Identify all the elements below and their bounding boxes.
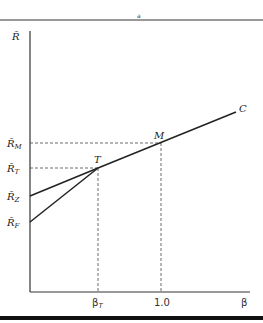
- point-t-label: T: [94, 154, 102, 165]
- rf-label: R̄F: [6, 217, 21, 230]
- beta-1-tick: 1.0: [154, 297, 170, 308]
- tmc-line: [98, 112, 236, 168]
- rz-label: R̄Z: [6, 191, 20, 204]
- rt-label: R̄T: [6, 163, 21, 176]
- page-mark: a: [137, 12, 141, 19]
- y-axis-label: R̄: [11, 31, 20, 42]
- rz-line: [30, 168, 98, 196]
- bottom-rule: [0, 316, 263, 320]
- point-c-label: C: [239, 103, 247, 114]
- rm-label: R̄M: [6, 138, 23, 151]
- beta-t-tick: βT: [92, 297, 103, 310]
- diagram-canvas: a R̄ β R̄M R̄T R̄Z R̄F βT 1.0 T M C: [0, 0, 263, 323]
- x-axis-label: β: [241, 297, 247, 308]
- point-m-label: M: [153, 130, 165, 141]
- rf-line: [30, 168, 98, 222]
